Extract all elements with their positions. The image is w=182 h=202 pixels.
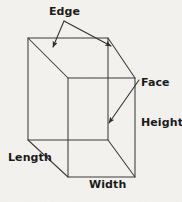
cuboid-diagram: Edge Face Height Length Width <box>0 0 182 202</box>
label-edge: Edge <box>49 6 80 18</box>
cuboid-drawing <box>0 0 182 202</box>
label-height: Height <box>141 117 182 129</box>
paper-grain <box>0 0 182 202</box>
label-length: Length <box>8 152 52 164</box>
label-width: Width <box>89 179 126 191</box>
label-face: Face <box>141 77 170 89</box>
